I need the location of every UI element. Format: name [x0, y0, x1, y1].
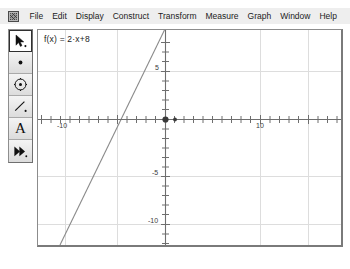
- menu-item-edit[interactable]: Edit: [48, 8, 72, 24]
- y-axis-label-five: 5: [155, 64, 159, 71]
- x-axis-label-ten: 10: [256, 122, 264, 129]
- toolbox: A: [8, 29, 33, 163]
- arrow-icon: [13, 34, 28, 49]
- custom-tool[interactable]: [9, 140, 32, 162]
- unit-point: [173, 118, 177, 122]
- coordinate-plot[interactable]: [38, 30, 341, 245]
- double-arrow-icon: [13, 144, 28, 159]
- menu-item-file[interactable]: File: [25, 8, 48, 24]
- sketchpad-app-icon[interactable]: [8, 11, 19, 22]
- menu-bar: File Edit Display Construct Transform Me…: [0, 8, 350, 24]
- grid-lines: [38, 30, 341, 245]
- x-axis-label-negative-ten: -10: [57, 122, 67, 129]
- menu-item-help[interactable]: Help: [315, 8, 341, 24]
- function-label[interactable]: f(x) = 2·x+8: [44, 34, 90, 44]
- text-tool[interactable]: A: [9, 118, 32, 140]
- straightedge-tool[interactable]: [9, 96, 32, 118]
- sketch-window[interactable]: f(x) = 2·x+8 -10 10 5 -5 -10: [37, 29, 343, 247]
- menu-item-construct[interactable]: Construct: [108, 8, 153, 24]
- circle-icon: [13, 77, 28, 92]
- point-tool[interactable]: [9, 52, 32, 74]
- menu-item-window[interactable]: Window: [276, 8, 315, 24]
- origin-point: [162, 116, 168, 122]
- compass-circle-tool[interactable]: [9, 74, 32, 96]
- function-curve[interactable]: [60, 30, 165, 245]
- y-axis-label-negative-five: -5: [152, 169, 158, 176]
- point-icon: [13, 55, 28, 70]
- y-axis-label-negative-ten: -10: [148, 217, 158, 224]
- selection-arrow-tool[interactable]: [9, 30, 32, 52]
- x-axis[interactable]: [38, 115, 341, 124]
- y-axis[interactable]: [161, 30, 170, 245]
- menu-item-transform[interactable]: Transform: [154, 8, 201, 24]
- menu-item-measure[interactable]: Measure: [201, 8, 243, 24]
- menu-item-graph[interactable]: Graph: [243, 8, 276, 24]
- segment-icon: [13, 99, 28, 114]
- menu-item-display[interactable]: Display: [71, 8, 108, 24]
- letter-a-icon: A: [15, 121, 26, 136]
